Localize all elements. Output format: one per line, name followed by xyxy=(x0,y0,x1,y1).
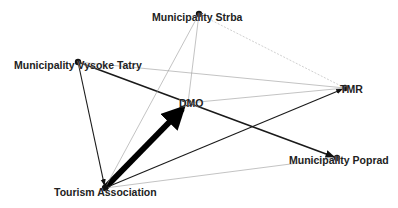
node-label-strba: Municipality Strba xyxy=(152,12,242,23)
node-label-tmr: TMR xyxy=(340,84,363,95)
node-label-dmo: DMO xyxy=(179,98,204,109)
node-label-vysoke-tatry: Municipality Vysoke Tatry xyxy=(14,60,142,71)
edge-ta-to-dmo xyxy=(105,109,182,188)
edge-ta-to-tmr xyxy=(105,89,342,188)
node-label-poprad: Municipality Poprad xyxy=(289,155,389,166)
edge-vysoke-to-ta xyxy=(78,62,104,185)
node-label-tourism-association: Tourism Association xyxy=(54,187,157,198)
edge-dmo-to-strba xyxy=(188,17,199,103)
edge-dmo-to-tmr xyxy=(188,88,342,103)
network-diagram: Municipality Strba Municipality Vysoke T… xyxy=(0,0,398,208)
edge-vysoke-to-poprad xyxy=(78,62,334,157)
